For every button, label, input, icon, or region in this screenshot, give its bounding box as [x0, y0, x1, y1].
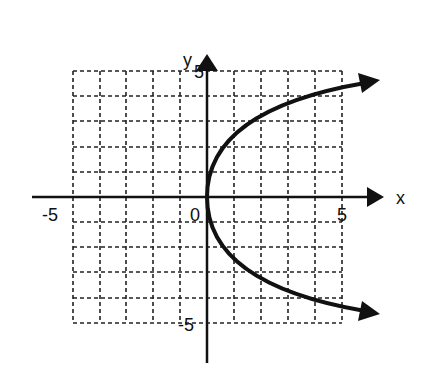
curve-top-arrow-icon: [358, 73, 380, 93]
x-tick-pos5: 5: [337, 205, 347, 225]
x-tick-neg5: -5: [42, 205, 58, 225]
y-tick-neg5: -5: [178, 315, 194, 335]
y-tick-pos5: 5: [194, 62, 204, 82]
y-axis-label: y: [183, 50, 192, 70]
x-tick-origin: 0: [190, 205, 200, 225]
parabola-graph: y x -5 0 5 5 -5: [0, 0, 421, 384]
curve-bottom-arrow-icon: [358, 301, 380, 321]
x-axis-label: x: [396, 188, 405, 208]
x-axis-arrow-icon: [367, 187, 384, 207]
